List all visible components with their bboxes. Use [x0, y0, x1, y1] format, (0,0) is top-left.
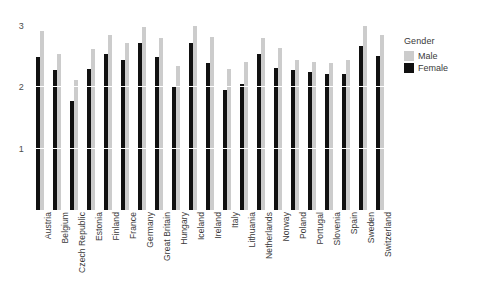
bar-male — [176, 66, 180, 210]
bar-group — [342, 20, 350, 210]
x-tick-label: Slovenia — [332, 212, 342, 245]
bar-group — [325, 20, 333, 210]
x-axis-category-labels: AustriaBelgiumCzech RepublicEstoniaFinla… — [31, 212, 389, 298]
legend-entries: MaleFemale — [404, 51, 490, 73]
legend-label: Female — [418, 63, 448, 73]
legend-swatch-female — [404, 63, 414, 73]
x-tick-label: Switzerland — [383, 212, 393, 257]
plot-area — [31, 20, 389, 210]
bar-male — [261, 38, 265, 210]
bar-female — [325, 74, 329, 210]
bar-female — [155, 57, 159, 210]
bar-group — [308, 20, 316, 210]
x-tick-label: Estonia — [94, 212, 104, 241]
x-tick-label: Norway — [281, 212, 291, 241]
x-tick-label: Portugal — [315, 212, 325, 244]
legend-label: Male — [418, 51, 438, 61]
bar-group — [155, 20, 163, 210]
x-tick-label: Italy — [230, 212, 240, 228]
bar-female — [359, 46, 363, 210]
bar-group — [240, 20, 248, 210]
bar-female — [104, 54, 108, 210]
bar-male — [57, 54, 61, 210]
bar-female — [342, 74, 346, 210]
bar-male — [125, 43, 129, 210]
bar-female — [274, 68, 278, 210]
bar-group — [53, 20, 61, 210]
bar-female — [121, 60, 125, 210]
bar-male — [74, 80, 78, 210]
legend-swatch-male — [404, 51, 414, 61]
bar-group — [291, 20, 299, 210]
x-tick-label: Germany — [145, 212, 155, 248]
bar-male — [329, 63, 333, 210]
bar-female — [206, 63, 210, 210]
bar-group — [257, 20, 265, 210]
bar-male — [312, 62, 316, 210]
bar-group — [104, 20, 112, 210]
x-tick-label: Czech Republic — [77, 212, 87, 273]
y-tick-label: 2 — [2, 82, 24, 92]
x-tick-label: Hungary — [179, 212, 189, 245]
gridline — [31, 148, 389, 149]
bar-male — [40, 31, 44, 210]
x-tick-label: Austria — [43, 212, 53, 239]
bar-male — [346, 60, 350, 210]
x-tick-label: Iceland — [196, 212, 206, 240]
bar-group — [223, 20, 231, 210]
x-tick-label: Poland — [298, 212, 308, 239]
bar-group — [138, 20, 146, 210]
bar-male — [278, 48, 282, 210]
x-tick-label: Lithuania — [247, 212, 257, 247]
bar-female — [308, 72, 312, 210]
bar-female — [138, 43, 142, 210]
chart-figure: 123 AustriaBelgiumCzech RepublicEstoniaF… — [0, 0, 492, 300]
x-tick-label: Sweden — [366, 212, 376, 243]
bar-group — [172, 20, 180, 210]
legend: Gender MaleFemale — [404, 36, 490, 75]
bar-female — [257, 54, 261, 210]
bar-group — [359, 20, 367, 210]
bar-group — [87, 20, 95, 210]
y-tick-label: 1 — [2, 144, 24, 154]
bar-female — [87, 69, 91, 210]
bar-male — [295, 60, 299, 210]
bar-male — [380, 35, 384, 210]
bar-group — [274, 20, 282, 210]
legend-title: Gender — [404, 36, 490, 46]
bar-group — [36, 20, 44, 210]
bar-female — [53, 70, 57, 210]
bar-male — [108, 35, 112, 210]
bar-group — [121, 20, 129, 210]
bar-male — [227, 69, 231, 210]
bar-group — [376, 20, 384, 210]
bar-female — [376, 56, 380, 210]
legend-item: Female — [404, 63, 490, 73]
x-tick-label: Finland — [111, 212, 121, 241]
bar-male — [159, 38, 163, 210]
bar-male — [142, 27, 146, 210]
bar-female — [223, 90, 227, 210]
bar-female — [70, 101, 74, 210]
bar-male — [210, 37, 214, 210]
bar-male — [244, 62, 248, 210]
bar-female — [291, 70, 295, 210]
x-tick-label: Netherlands — [264, 212, 274, 259]
x-tick-label: Spain — [349, 212, 359, 234]
legend-item: Male — [404, 51, 490, 61]
x-tick-label: Belgium — [60, 212, 70, 243]
x-tick-label: Ireland — [213, 212, 223, 239]
y-tick-label: 3 — [2, 21, 24, 31]
x-tick-label: France — [128, 212, 138, 239]
bar-male — [363, 26, 367, 210]
bar-female — [189, 43, 193, 210]
bar-male — [91, 49, 95, 210]
bar-female — [36, 57, 40, 210]
bar-male — [193, 25, 197, 210]
bar-group — [206, 20, 214, 210]
x-tick-label: Great Britain — [162, 212, 172, 261]
bar-group — [70, 20, 78, 210]
gridline — [31, 25, 389, 26]
bar-group — [189, 20, 197, 210]
gridline — [31, 86, 389, 87]
